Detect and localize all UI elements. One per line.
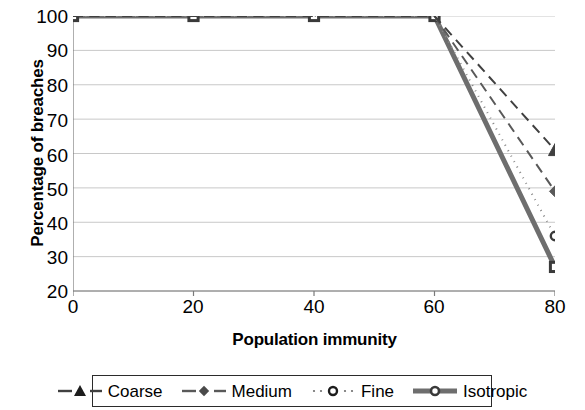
x-axis-title: Population immunity	[73, 330, 556, 350]
y-tick-label: 70	[12, 111, 68, 130]
legend-item-medium[interactable]: Medium	[181, 383, 292, 400]
legend-key-medium	[181, 383, 227, 399]
y-tick-label: 40	[12, 214, 68, 233]
chart-legend: Coarse Medium Fine Isotropic	[92, 375, 492, 407]
y-tick-label: 80	[12, 76, 68, 95]
legend-key-coarse	[57, 383, 103, 399]
legend-label-isotropic: Isotropic	[463, 383, 527, 400]
legend-key-isotropic	[412, 383, 458, 399]
legend-item-isotropic[interactable]: Isotropic	[412, 383, 527, 400]
legend-item-coarse[interactable]: Coarse	[57, 383, 163, 400]
legend-item-fine[interactable]: Fine	[310, 383, 394, 400]
legend-label-coarse: Coarse	[108, 383, 163, 400]
chart-figure: Percentage of breaches 100 90 80 70 60 5…	[0, 0, 585, 410]
plot-area	[73, 16, 555, 291]
y-tick-label: 30	[12, 248, 68, 267]
y-tick-label: 50	[12, 180, 68, 199]
legend-label-fine: Fine	[361, 383, 394, 400]
y-axis-tick-labels: 100 90 80 70 60 50 40 30 20	[6, 0, 68, 310]
plot-svg	[73, 16, 555, 301]
legend-label-medium: Medium	[232, 383, 292, 400]
y-tick-label: 100	[12, 7, 68, 26]
y-tick-label: 90	[12, 41, 68, 60]
y-tick-label: 60	[12, 146, 68, 165]
legend-key-fine	[310, 383, 356, 399]
